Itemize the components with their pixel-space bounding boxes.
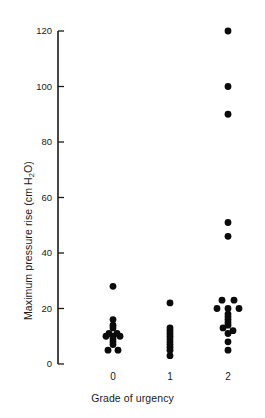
data-point xyxy=(225,83,232,90)
data-point xyxy=(231,297,238,304)
data-point xyxy=(110,283,117,290)
y-axis-tick-label: 20 xyxy=(41,303,52,314)
y-axis-tick-label: 0 xyxy=(47,358,52,369)
data-point xyxy=(167,352,174,359)
data-point xyxy=(167,300,174,307)
data-point xyxy=(225,347,232,354)
y-axis-tick-label: 40 xyxy=(41,247,52,258)
y-axis-tick-labels: 020406080100120 xyxy=(36,25,52,369)
y-axis-ticks xyxy=(58,31,64,364)
data-point xyxy=(225,111,232,118)
data-point xyxy=(117,333,124,340)
x-axis-tick-label: 0 xyxy=(110,371,116,382)
y-axis-tick-label: 120 xyxy=(36,25,52,36)
data-point xyxy=(110,325,117,332)
x-axis-tick-label: 1 xyxy=(167,371,173,382)
series-2 xyxy=(214,28,243,354)
y-axis-tick-label: 80 xyxy=(41,136,52,147)
y-axis-tick-label: 60 xyxy=(41,192,52,203)
y-axis-tick-label: 100 xyxy=(36,81,52,92)
series-0 xyxy=(103,283,124,354)
data-point xyxy=(225,330,232,337)
data-point xyxy=(219,297,226,304)
data-point xyxy=(225,233,232,240)
data-points xyxy=(103,28,243,359)
x-axis-tick-labels: 012 xyxy=(110,371,231,382)
plot-area: 020406080100120 012 xyxy=(0,0,265,418)
series-1 xyxy=(167,300,174,360)
data-point xyxy=(115,347,122,354)
data-point xyxy=(225,28,232,35)
data-point xyxy=(110,341,117,348)
x-axis-tick-label: 2 xyxy=(225,371,231,382)
dot-plot-figure: Maximum pressure rise (cm H2O) Grade of … xyxy=(0,0,265,418)
data-point xyxy=(214,305,221,312)
data-point xyxy=(225,219,232,226)
data-point xyxy=(105,347,112,354)
data-point xyxy=(103,333,110,340)
data-point xyxy=(225,338,232,345)
data-point xyxy=(236,305,243,312)
data-point xyxy=(220,325,227,332)
